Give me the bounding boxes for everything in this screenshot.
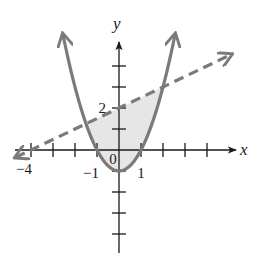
y-axis-label: y xyxy=(111,14,121,33)
origin-label: 0 xyxy=(109,151,117,167)
x-tick-label-1: 1 xyxy=(137,165,145,181)
graph-figure: x y −4 −1 1 0 2 xyxy=(0,0,263,259)
x-tick-label-neg1: −1 xyxy=(83,165,99,181)
y-tick-label-2: 2 xyxy=(99,100,107,116)
x-axis-label: x xyxy=(239,140,248,159)
x-tick-label-neg4: −4 xyxy=(16,161,32,177)
